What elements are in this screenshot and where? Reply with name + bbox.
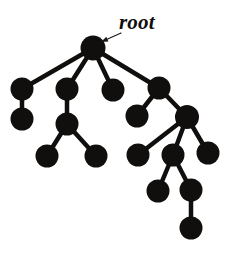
tree-node xyxy=(11,108,34,131)
pointer-arrowhead-icon xyxy=(101,37,108,42)
tree-node-root xyxy=(81,36,106,61)
tree-node xyxy=(147,180,170,203)
tree-node xyxy=(148,77,171,100)
tree-node xyxy=(127,144,150,167)
tree-graphic xyxy=(0,0,231,258)
tree-node xyxy=(85,145,108,168)
tree-node xyxy=(197,142,220,165)
tree-node xyxy=(180,179,203,202)
tree-node xyxy=(175,105,199,129)
tree-nodes xyxy=(11,36,220,240)
tree-node xyxy=(56,78,79,101)
tree-node xyxy=(126,105,149,128)
tree-node xyxy=(36,145,59,168)
tree-diagram: root xyxy=(0,0,231,258)
root-label: root xyxy=(119,11,155,34)
tree-node xyxy=(102,79,125,102)
root-pointer-arrow xyxy=(101,33,121,42)
tree-node xyxy=(56,113,79,136)
tree-node xyxy=(162,144,185,167)
tree-node xyxy=(180,217,203,240)
tree-node xyxy=(11,78,34,101)
tree-edges xyxy=(22,48,208,228)
